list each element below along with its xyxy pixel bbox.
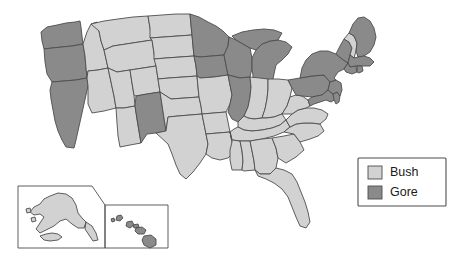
state-SD[interactable] bbox=[150, 35, 194, 59]
legend-label-bush: Bush bbox=[390, 165, 419, 179]
election-map: Bush Gore bbox=[0, 0, 454, 265]
legend-swatch-gore[interactable] bbox=[368, 186, 382, 199]
state-MN[interactable] bbox=[190, 14, 229, 57]
state-HI-big-island[interactable] bbox=[142, 235, 156, 248]
state-AK-aleutians-2[interactable] bbox=[31, 217, 36, 222]
states-layer bbox=[18, 14, 376, 248]
state-AR[interactable] bbox=[202, 112, 230, 134]
state-OR[interactable] bbox=[44, 44, 87, 82]
state-RI[interactable] bbox=[357, 66, 363, 73]
state-HI-niihau[interactable] bbox=[111, 218, 115, 222]
state-HI-maui[interactable] bbox=[135, 227, 146, 234]
state-HI-kauai[interactable] bbox=[116, 215, 123, 221]
state-AK-panhandle[interactable] bbox=[85, 222, 98, 241]
legend-label-gore: Gore bbox=[390, 185, 418, 199]
state-HI-molokai[interactable] bbox=[133, 224, 139, 228]
state-MA[interactable] bbox=[348, 55, 374, 67]
state-FL[interactable] bbox=[255, 168, 310, 228]
state-ND[interactable] bbox=[148, 14, 192, 38]
state-AK-islands[interactable] bbox=[40, 233, 62, 241]
state-IA[interactable] bbox=[194, 55, 228, 78]
state-AK[interactable] bbox=[30, 193, 86, 233]
legend-swatch-bush[interactable] bbox=[368, 166, 382, 179]
map-legend: Bush Gore bbox=[358, 158, 446, 206]
state-CO[interactable] bbox=[130, 66, 160, 96]
state-NE[interactable] bbox=[154, 56, 197, 79]
state-HI-oahu[interactable] bbox=[126, 221, 134, 228]
state-CA[interactable] bbox=[50, 78, 88, 148]
state-MO[interactable] bbox=[197, 75, 232, 114]
map-canvas: Bush Gore bbox=[0, 0, 454, 265]
state-AK-aleutians-1[interactable] bbox=[26, 208, 31, 213]
